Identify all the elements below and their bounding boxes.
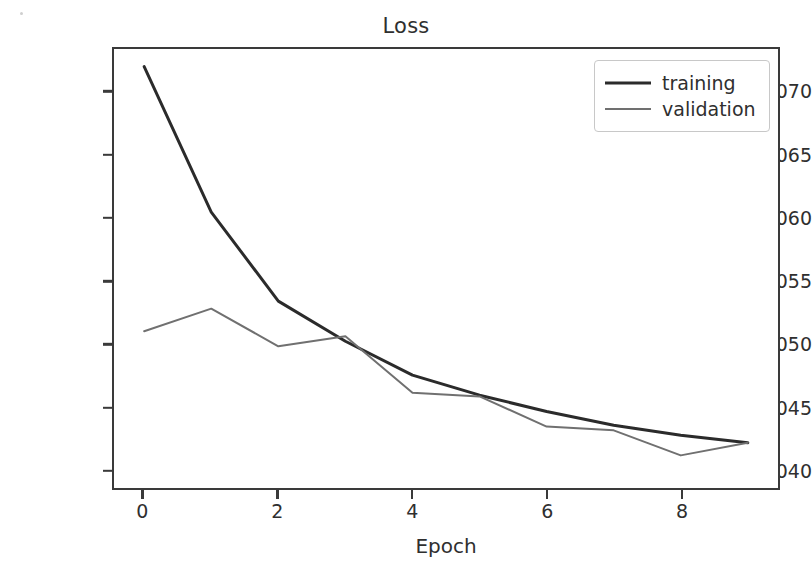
x-tick-label: 8 xyxy=(662,500,702,522)
y-tick-mark xyxy=(103,217,112,219)
y-tick-mark xyxy=(103,153,112,155)
legend-label-validation: validation xyxy=(662,98,756,120)
x-tick-label: 2 xyxy=(257,500,297,522)
figure-canvas: Loss 0.0400.0450.0500.0550.0600.0650.070… xyxy=(0,0,812,585)
x-tick-label: 6 xyxy=(527,500,567,522)
x-axis-label: Epoch xyxy=(112,534,780,558)
x-tick-mark xyxy=(141,490,143,499)
line-series-validation xyxy=(144,309,748,456)
chart-title: Loss xyxy=(0,14,812,38)
x-tick-label: 4 xyxy=(392,500,432,522)
legend-item-training: training xyxy=(605,70,759,96)
legend-item-validation: validation xyxy=(605,96,759,122)
legend-swatch-training xyxy=(605,77,651,89)
legend-swatch-validation xyxy=(605,103,651,115)
x-tick-mark xyxy=(546,490,548,499)
legend-box: training validation xyxy=(594,60,770,132)
y-tick-mark xyxy=(103,90,112,92)
legend-label-training: training xyxy=(662,72,736,94)
y-tick-mark xyxy=(103,407,112,409)
x-tick-label: 0 xyxy=(122,500,162,522)
y-tick-mark xyxy=(103,343,112,345)
x-tick-mark xyxy=(276,490,278,499)
x-tick-mark xyxy=(411,490,413,499)
x-tick-mark xyxy=(681,490,683,499)
y-tick-mark xyxy=(103,280,112,282)
y-tick-mark xyxy=(103,470,112,472)
